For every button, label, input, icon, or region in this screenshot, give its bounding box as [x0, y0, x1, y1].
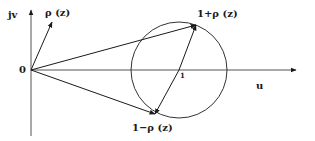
horizontal-axis-label: u [256, 80, 263, 91]
one-plus-rho-label: 1+ρ (z) [197, 8, 238, 19]
vertical-axis-label: jv [7, 9, 19, 20]
origin-label: 0 [19, 64, 26, 75]
diameter-vector-lower [155, 70, 179, 114]
rho-vector [31, 22, 52, 70]
one-plus-rho-vector [31, 25, 196, 70]
one-minus-rho-label: 1−ρ (z) [132, 122, 173, 133]
complex-plane-diagram: jv 0 u 1 ρ (z) 1+ρ (z) 1−ρ (z) [0, 0, 315, 141]
rho-label: ρ (z) [45, 7, 70, 18]
diameter-vector [179, 25, 196, 70]
circle-center-label: 1 [180, 71, 185, 80]
